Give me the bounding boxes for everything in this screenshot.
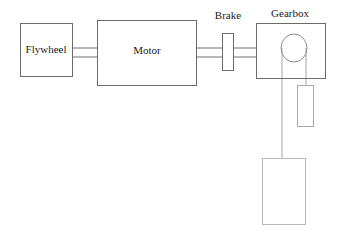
drivetrain-diagram: Flywheel Motor Brake Gearbox [0,0,341,234]
small-weight-box [298,86,314,127]
shaft-motor-brake [196,48,222,57]
shaft-brake-gearbox [233,48,256,57]
gearbox-label: Gearbox [271,7,309,19]
gearbox-pulley-icon [281,34,307,62]
diagram-canvas: Flywheel Motor Brake Gearbox [0,0,341,234]
brake-box [223,34,234,71]
large-weight-box [263,159,306,225]
shaft-flywheel-motor [72,48,97,57]
gearbox-box [257,24,326,79]
motor-label: Motor [133,44,161,56]
flywheel-label: Flywheel [26,43,67,55]
brake-label: Brake [215,9,241,21]
